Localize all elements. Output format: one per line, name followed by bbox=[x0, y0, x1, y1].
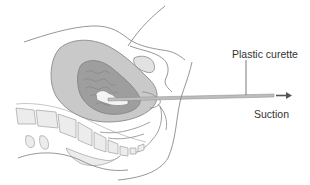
anterior-wall-line bbox=[128, 6, 165, 46]
curette-label: Plastic curette bbox=[232, 48, 298, 60]
anatomy-illustration bbox=[0, 0, 310, 185]
suction-curettage-diagram: Plastic curette Suction bbox=[0, 0, 310, 185]
vaginal-wall-upper bbox=[158, 104, 167, 130]
suction-label: Suction bbox=[254, 108, 289, 120]
rectum-line-2 bbox=[108, 134, 144, 139]
suction-arrow-icon bbox=[276, 92, 292, 99]
rectum-line-1 bbox=[100, 122, 150, 133]
